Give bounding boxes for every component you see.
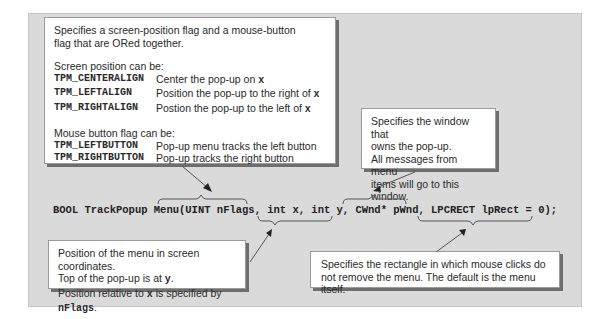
flag-row: TPM_LEFTALIGN Position the pop-up to the… (54, 87, 326, 102)
position-line-2: Top of the pop-up is at y. (58, 272, 236, 287)
lprect-line-1: Specifies the rectangle in which mouse c… (321, 258, 549, 271)
nflags-intro: Specifies a screen-position flag and a m… (54, 24, 304, 49)
mouse-button-heading: Mouse button flag can be: (54, 127, 326, 140)
flag-row: TPM_RIGHTBUTTON Pop-up tracks the right … (54, 152, 326, 165)
flag-name: TPM_CENTERALIGN (54, 73, 156, 88)
pwnd-line: All messages from menu (371, 153, 486, 178)
pwnd-line: items will go to this window. (371, 178, 486, 203)
flag-desc: Position the pop-up to the right of x (156, 87, 320, 102)
screen-position-heading: Screen position can be: (54, 60, 326, 73)
flag-name: TPM_LEFTALIGN (54, 87, 156, 102)
flag-desc: Pop-up menu tracks the left button (156, 140, 317, 153)
lprect-line-2: not remove the menu. The default is the … (321, 271, 549, 296)
pwnd-line: owns the pop-up. (371, 140, 486, 153)
flag-name: TPM_LEFTBUTTON (54, 140, 156, 153)
flag-row: TPM_LEFTBUTTON Pop-up menu tracks the le… (54, 140, 326, 153)
flag-desc: Center the pop-up on x (156, 73, 264, 88)
function-signature: BOOL TrackPopup Menu(UINT nFlags, int x,… (53, 204, 557, 216)
flag-desc: Pop-up tracks the right button (156, 152, 294, 165)
position-line-3: Position relative to x is specified by n… (58, 287, 236, 316)
callout-position: Position of the menu in screen coordinat… (48, 240, 246, 289)
flag-name: TPM_RIGHTBUTTON (54, 152, 156, 165)
callout-nflags: Specifies a screen-position flag and a m… (44, 17, 336, 164)
position-line-1: Position of the menu in screen coordinat… (58, 247, 236, 272)
callout-lprect: Specifies the rectangle in which mouse c… (310, 251, 560, 288)
flag-desc: Postion the pop-up to the left of x (156, 102, 311, 117)
flag-name: TPM_RIGHTALIGN (54, 102, 156, 117)
flag-row: TPM_CENTERALIGN Center the pop-up on x (54, 73, 326, 88)
pwnd-line: Specifies the window that (371, 115, 486, 140)
flag-row: TPM_RIGHTALIGN Postion the pop-up to the… (54, 102, 326, 117)
callout-pwnd: Specifies the window that owns the pop-u… (361, 108, 496, 169)
